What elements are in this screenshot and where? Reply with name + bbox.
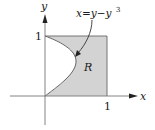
region-diagram: x y 1 1 R x=y−y 3 [0,0,155,130]
shaded-region-r [45,36,107,96]
y-tick-one: 1 [35,30,42,43]
equation-main: x=y−y [76,7,112,19]
x-axis-label: x [140,90,147,103]
equation-exponent: 3 [116,6,120,14]
y-axis-arrow-icon [43,14,48,23]
curve-equation-label: x=y−y [76,7,112,19]
y-axis-label: y [40,0,48,13]
x-tick-one: 1 [104,100,111,113]
region-label: R [83,61,92,74]
x-axis-arrow-icon [129,94,138,99]
